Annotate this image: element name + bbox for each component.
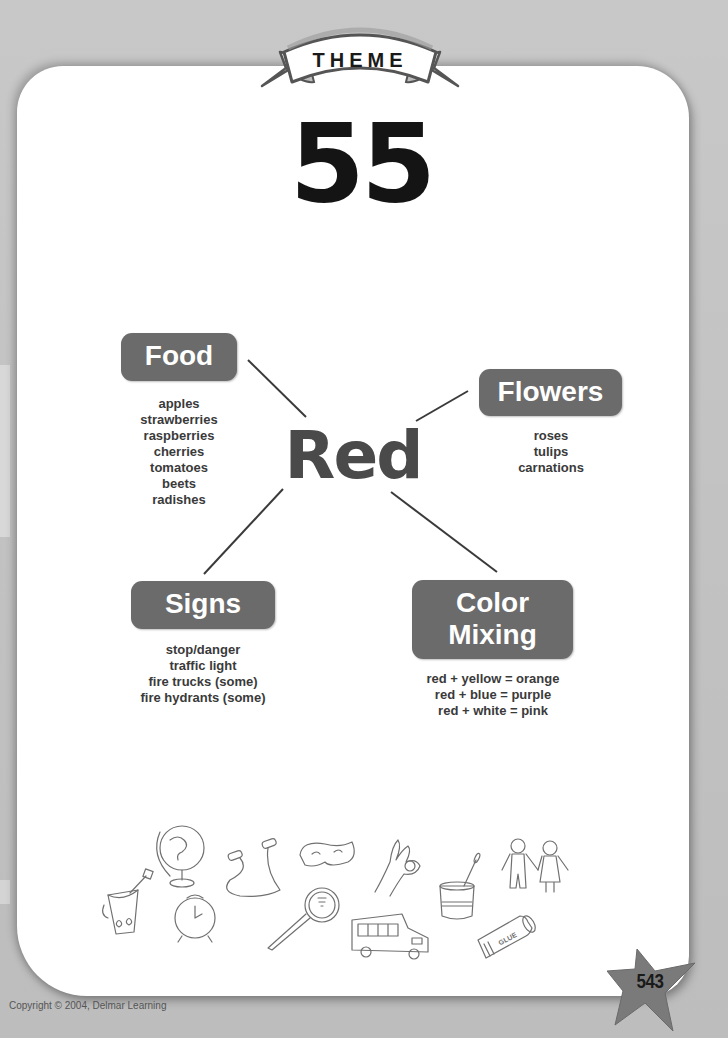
list-item: traffic light (128, 658, 278, 674)
theme-banner-label: THEME (313, 49, 408, 71)
paper-doll-children-icon (502, 839, 568, 892)
paint-cup-icon (440, 853, 481, 919)
category-box-signs: Signs (131, 581, 275, 629)
school-bus-icon (352, 914, 428, 959)
list-item: fire trucks (some) (128, 674, 278, 690)
category-list-flowers: roses tulips carnations (480, 428, 622, 476)
category-title: Flowers (479, 369, 622, 415)
list-item: tulips (480, 444, 622, 460)
list-item: fire hydrants (some) (128, 690, 278, 706)
category-list-color-mixing: red + yellow = orange red + blue = purpl… (405, 671, 581, 719)
category-box-color-mixing: Color Mixing (412, 580, 573, 659)
globe-icon (157, 826, 204, 887)
list-item: red + white = pink (405, 703, 581, 719)
list-item: roses (480, 428, 622, 444)
ok-hand-sign-icon (375, 840, 420, 896)
list-item: red + yellow = orange (405, 671, 581, 687)
category-box-food: Food (121, 333, 237, 381)
category-list-food: apples strawberries raspberries cherries… (120, 396, 238, 508)
list-item: raspberries (120, 428, 238, 444)
list-item: carnations (480, 460, 622, 476)
theme-number: 55 (250, 110, 472, 218)
list-item: red + blue = purple (405, 687, 581, 703)
clipart-row: GLUE (90, 810, 610, 960)
page-edge-strip (0, 880, 10, 904)
category-list-signs: stop/danger traffic light fire trucks (s… (128, 642, 278, 706)
category-title: Food (121, 333, 237, 379)
list-item: tomatoes (120, 460, 238, 476)
list-item: stop/danger (128, 642, 278, 658)
alarm-clock-icon (175, 895, 215, 942)
list-item: radishes (120, 492, 238, 508)
glue-stick-icon: GLUE (478, 914, 538, 958)
copyright-notice: Copyright © 2004, Delmar Learning (9, 1000, 166, 1011)
page-edge-strip (0, 365, 10, 537)
list-item: beets (120, 476, 238, 492)
category-title-line: Mixing (412, 619, 573, 651)
svg-text:GLUE: GLUE (497, 931, 518, 946)
sand-bucket-icon (103, 869, 153, 934)
center-topic-word: Red (270, 416, 436, 496)
list-item: strawberries (120, 412, 238, 428)
magnifying-glass-icon (268, 888, 339, 950)
cat-mask-icon (300, 842, 354, 866)
list-item: cherries (120, 444, 238, 460)
category-title-line: Color (412, 587, 573, 619)
category-box-flowers: Flowers (479, 369, 622, 416)
list-item: apples (120, 396, 238, 412)
category-title: Signs (131, 581, 275, 627)
page-number: 543 (629, 970, 672, 993)
jump-rope-icon (227, 838, 280, 897)
